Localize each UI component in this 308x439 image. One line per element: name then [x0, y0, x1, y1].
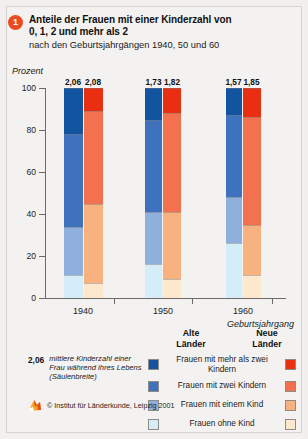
legend-item-label: Frauen mit einem Kind	[159, 400, 285, 410]
bar-segment	[243, 275, 261, 298]
note-text: mittlere Kinderzahl einer Frau während i…	[49, 354, 146, 382]
publisher-logo-icon	[28, 398, 43, 413]
legend-item: Frauen mit mehr als zwei Kindern	[148, 354, 296, 375]
legend-item-label: Frauen mit mehr als zwei Kindern	[159, 355, 285, 374]
legend-item: Frauen ohne Kind	[148, 416, 296, 432]
credit-text: © Institut für Länderkunde, Leipzig 2001	[47, 401, 175, 410]
bar-segment	[163, 279, 181, 298]
bar-1950-old	[145, 88, 162, 298]
bar-segment	[84, 111, 103, 203]
x-axis-tick-label: 1940	[53, 306, 113, 316]
page-title-line1: Anteile der Frauen mit einer Kinderzahl …	[29, 14, 290, 26]
legend-item-list: Frauen mit mehr als zwei KindernFrauen m…	[148, 354, 296, 435]
bar-segment	[163, 212, 181, 279]
legend-col-old-line2: Länder	[176, 339, 205, 349]
legend-col-new-line2: Länder	[252, 339, 281, 349]
bar-segment	[64, 227, 83, 275]
bar-value-label: 2,08	[79, 77, 107, 87]
y-axis-tick	[39, 214, 46, 215]
x-axis-line	[45, 298, 286, 299]
legend-swatch-old	[148, 381, 159, 392]
legend-col-new-line1: Neue	[256, 328, 278, 338]
page-title-line2: 0, 1, 2 und mehr als 2	[29, 26, 290, 38]
bar-1950-new	[163, 88, 181, 298]
y-axis-tick	[39, 130, 46, 131]
bar-1960-old	[226, 88, 242, 298]
bar-segment	[145, 212, 162, 265]
y-axis-tick-label: 80	[4, 125, 36, 135]
x-axis-tick-label: 1960	[213, 306, 273, 316]
page-subtitle: nach den Geburtsjahrgängen 1940, 50 und …	[29, 39, 290, 51]
bar-segment	[145, 120, 162, 212]
x-axis-tick	[192, 299, 193, 304]
y-axis-tick	[39, 256, 46, 257]
bar-width-note: 2,06 mittlere Kinderzahl einer Frau währ…	[28, 354, 146, 382]
bar-1960-new	[243, 88, 261, 298]
x-axis-tick	[114, 299, 115, 304]
title-block: Anteile der Frauen mit einer Kinderzahl …	[29, 14, 290, 51]
bar-segment	[226, 197, 242, 243]
legend-column-old: Alte Länder	[164, 328, 218, 349]
bar-segment	[163, 113, 181, 212]
bar-segment	[226, 115, 242, 197]
legend-swatch-old	[148, 359, 159, 370]
y-axis-tick-label: 40	[4, 209, 36, 219]
legend-col-old-line1: Alte	[183, 328, 200, 338]
y-axis-tick-label: 0	[4, 293, 36, 303]
y-axis-tick	[39, 88, 46, 89]
bar-value-label: 1,82	[158, 77, 186, 87]
bar-segment	[84, 88, 103, 111]
chart-plot: 020406080100 194019501960 Geburtsjahrgan…	[12, 80, 294, 315]
credit-line: © Institut für Länderkunde, Leipzig 2001	[28, 398, 175, 413]
legend-swatch-new	[285, 359, 296, 370]
bar-segment	[145, 264, 162, 298]
bar-1940-new	[84, 88, 103, 298]
legend-swatch-new	[285, 381, 296, 392]
bar-value-label: 1,85	[238, 77, 266, 87]
bar-segment	[226, 88, 242, 115]
legend-item: Frauen mit zwei Kindern	[148, 378, 296, 394]
x-axis-tick-label: 1950	[133, 306, 193, 316]
y-axis-tick	[39, 172, 46, 173]
note-value: 2,06	[28, 355, 44, 365]
bar-segment	[163, 88, 181, 113]
x-axis-tick	[272, 299, 273, 304]
bar-1940-old	[64, 88, 83, 298]
bar-segment	[64, 88, 83, 134]
infographic-page: 1 Anteile der Frauen mit einer Kinderzah…	[0, 0, 308, 439]
bar-segment	[243, 88, 261, 117]
figure-number-badge: 1	[8, 15, 23, 30]
bar-segment	[243, 225, 261, 275]
bar-segment	[84, 283, 103, 298]
legend-swatch-new	[285, 400, 296, 411]
bar-segment	[243, 117, 261, 224]
plot-area	[46, 88, 286, 298]
bar-segment	[64, 275, 83, 298]
y-axis-tick-label: 60	[4, 167, 36, 177]
chart-header: 1 Anteile der Frauen mit einer Kinderzah…	[8, 14, 290, 51]
bar-segment	[145, 88, 162, 120]
chart-legend: Alte Länder Neue Länder Frauen mit mehr …	[12, 328, 296, 424]
y-axis-tick-label: 100	[4, 83, 36, 93]
legend-column-new: Neue Länder	[240, 328, 294, 349]
legend-item-label: Frauen ohne Kind	[159, 419, 285, 429]
legend-item-label: Frauen mit zwei Kindern	[159, 381, 285, 391]
y-axis-tick	[39, 298, 46, 299]
y-axis-tick-label: 20	[4, 251, 36, 261]
legend-swatch-new	[285, 419, 296, 430]
legend-swatch-old	[148, 419, 159, 430]
y-axis-unit-label: Prozent	[12, 66, 43, 76]
bar-segment	[64, 134, 83, 226]
bar-segment	[226, 243, 242, 298]
bar-segment	[84, 204, 103, 284]
